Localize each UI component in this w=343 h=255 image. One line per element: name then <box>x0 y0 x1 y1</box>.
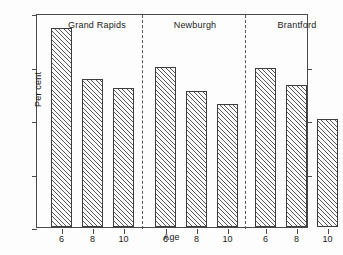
bar-brantford-8 <box>286 85 307 227</box>
y-tick-4 <box>32 15 37 16</box>
group-label-brantford: Brantford <box>278 20 317 30</box>
y-axis-title: Per cent <box>33 72 43 107</box>
bar-brantford-10 <box>317 119 338 227</box>
bar-brantford-6 <box>255 68 276 227</box>
x-axis-title: Age <box>0 232 343 242</box>
y-tick-right-2 <box>307 122 312 123</box>
y-tick-0 <box>32 229 37 230</box>
group-label-newburgh: Newburgh <box>174 20 217 30</box>
y-tick-right-1 <box>307 176 312 177</box>
bar-newburgh-6 <box>155 67 176 228</box>
group-separator-2 <box>245 15 246 229</box>
y-tick-right-3 <box>307 69 312 70</box>
y-tick-1 <box>32 176 37 177</box>
bar-newburgh-8 <box>186 91 207 227</box>
bar-grand-rapids-10 <box>113 88 134 227</box>
bar-grand-rapids-8 <box>82 79 103 227</box>
y-tick-3 <box>32 69 37 70</box>
bar-newburgh-10 <box>217 104 238 227</box>
y-tick-2 <box>32 122 37 123</box>
group-separator-1 <box>142 15 143 229</box>
group-label-grand-rapids: Grand Rapids <box>68 20 126 30</box>
bar-chart-figure: 0 20 40 60 80 Grand Rapids Newburgh Bran… <box>0 0 343 255</box>
plot-area: 0 20 40 60 80 Grand Rapids Newburgh Bran… <box>36 14 308 228</box>
bar-grand-rapids-6 <box>51 28 72 227</box>
